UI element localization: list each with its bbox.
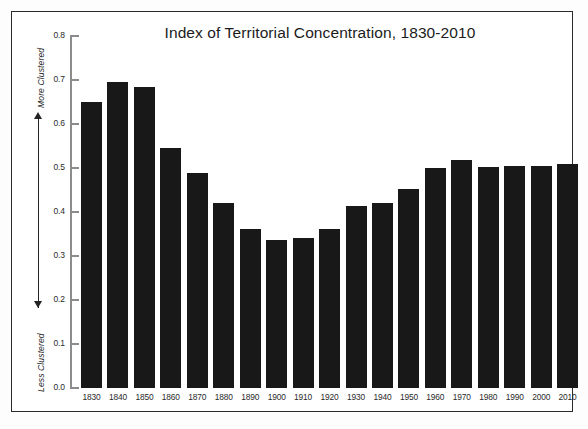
y-axis-tick: [70, 35, 79, 36]
y-axis-tick: [70, 255, 79, 256]
bar-1990: [504, 166, 525, 388]
y-axis-tick-label: 0.4: [39, 206, 65, 216]
less-clustered-label: Less Clustered: [36, 333, 46, 392]
bar-2010: [557, 164, 578, 388]
bar-1890: [240, 229, 261, 388]
arrow-up-icon: [34, 112, 42, 119]
chart-figure: Index of Territorial Concentration, 1830…: [0, 0, 588, 429]
bar-1830: [81, 102, 102, 388]
bar-1960: [425, 168, 446, 388]
bar-1930: [346, 206, 367, 388]
bar-chart-plot-area: 0.00.10.20.30.40.50.60.70.8 183018401850…: [0, 0, 588, 429]
y-axis-tick: [70, 387, 79, 388]
bar-1980: [478, 167, 499, 388]
bar-1870: [187, 173, 208, 388]
y-axis-tick: [70, 167, 79, 168]
bar-1920: [319, 229, 340, 388]
arrow-down-icon: [34, 301, 42, 308]
bar-1970: [451, 160, 472, 388]
bar-1950: [398, 189, 419, 388]
y-axis-tick: [70, 79, 79, 80]
bar-1850: [134, 87, 155, 388]
bar-1860: [160, 148, 181, 388]
y-axis-tick: [70, 343, 79, 344]
more-clustered-label: More Clustered: [36, 48, 46, 108]
y-axis-tick-label: 0.8: [39, 30, 65, 40]
x-axis-tick-label-2010: 2010: [551, 392, 585, 402]
y-axis-tick-label: 0.6: [39, 118, 65, 128]
y-axis-tick-label: 0.2: [39, 294, 65, 304]
bar-1910: [293, 238, 314, 388]
bar-1840: [107, 82, 128, 388]
bar-1940: [372, 203, 393, 388]
direction-arrow-shaft: [38, 118, 39, 308]
y-axis-tick: [70, 211, 79, 212]
bar-2000: [531, 166, 552, 388]
bar-1900: [266, 240, 287, 388]
bar-1880: [213, 203, 234, 388]
y-axis-tick-label: 0.5: [39, 162, 65, 172]
y-axis-tick: [70, 123, 79, 124]
y-axis-tick-label: 0.3: [39, 250, 65, 260]
y-axis-tick: [70, 299, 79, 300]
